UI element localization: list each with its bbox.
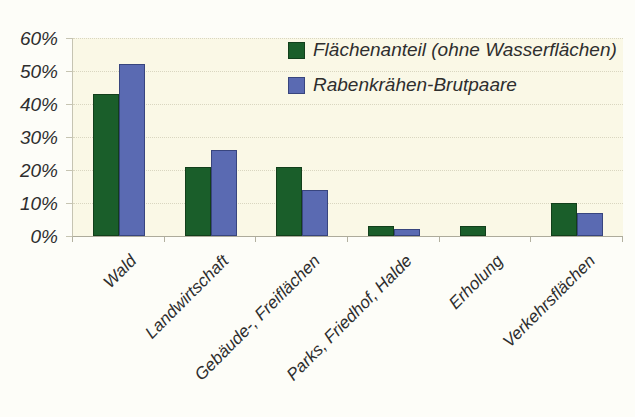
bar-series1 [460,226,486,236]
gridline [73,137,623,138]
bar-chart-figure: 0%10%20%30%40%50%60% WaldLandwirtschaftG… [0,0,635,417]
bar-series1 [368,226,394,236]
x-axis-category-label: Wald [101,252,140,291]
bar-series1 [276,167,302,236]
bar-series1 [185,167,211,236]
y-axis-tick-label: 50% [0,62,58,81]
gridline [73,170,623,171]
legend-item: Rabenkrähen-Brutpaare [288,73,617,97]
x-axis-tick-mark [622,237,623,242]
y-axis-tick-label: 30% [0,128,58,147]
legend-swatch [288,42,305,59]
legend-item: Flächenanteil (ohne Wasserflächen) [288,38,617,62]
x-axis-tick-mark [530,237,531,242]
y-axis-tick-label: 20% [0,161,58,180]
x-axis-tick-mark [164,237,165,242]
bar-series1 [551,203,577,236]
y-axis-tick-label: 10% [0,194,58,213]
y-axis-tick-label: 60% [0,29,58,48]
x-axis-category-label: Landwirtschaft [142,252,232,342]
gridline [73,203,623,204]
bar-series2 [211,150,237,236]
legend-label: Flächenanteil (ohne Wasserflächen) [313,38,617,62]
x-axis-category-label: Verkehrsflächen [500,252,598,350]
legend-swatch [288,77,305,94]
bar-series2 [577,213,603,236]
x-axis-category-label: Erholung [446,252,506,312]
x-axis-tick-mark [255,237,256,242]
x-axis-tick-mark [72,237,73,242]
bar-series2 [119,64,145,236]
legend: Flächenanteil (ohne Wasserflächen)Rabenk… [288,38,617,108]
legend-label: Rabenkrähen-Brutpaare [313,73,517,97]
y-axis-tick-label: 0% [0,227,58,246]
x-axis-tick-mark [347,237,348,242]
y-axis-tick-label: 40% [0,95,58,114]
x-axis-tick-mark [439,237,440,242]
bar-series2 [302,190,328,236]
bar-series1 [93,94,119,236]
bar-series2 [394,229,420,236]
